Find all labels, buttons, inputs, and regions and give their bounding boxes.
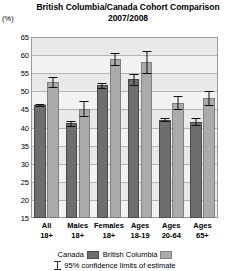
y-axis-tick-label: 40 [5, 123, 29, 132]
bar-british-columbia [172, 103, 184, 218]
chart-container: British Columbia/Canada Cohort Compariso… [0, 0, 230, 271]
legend-confidence-label: 95% confidence limits of estimate [64, 261, 175, 270]
legend-label-british-columbia: British Columbia [103, 250, 158, 259]
y-axis-tick-label: 45 [5, 105, 29, 114]
bar-canada [159, 120, 171, 218]
y-axis-tick-label: 50 [5, 87, 29, 96]
chart-subtitle: 2007/2008 [28, 13, 228, 24]
y-axis-tick-label: 60 [5, 51, 29, 60]
legend-swatch-canada-icon [87, 251, 99, 259]
bar-canada [97, 85, 109, 218]
chart-legend: Canada British Columbia 95% confidence l… [0, 249, 230, 271]
chart-title: British Columbia/Canada Cohort Compariso… [28, 2, 228, 23]
y-axis-tick-label: 65 [5, 33, 29, 42]
legend-swatch-british-columbia-icon [160, 251, 172, 259]
y-axis-tick-label: 35 [5, 141, 29, 150]
x-tick-line2: 65+ [183, 231, 222, 241]
legend-item-canada: Canada [58, 250, 99, 259]
legend-item-british-columbia: British Columbia [103, 250, 173, 259]
bars-layer [31, 37, 218, 218]
bar-british-columbia [203, 98, 215, 218]
y-axis-unit-label: (%) [2, 14, 14, 23]
legend-series-row: Canada British Columbia [0, 249, 230, 260]
bar-canada [128, 79, 140, 218]
x-axis-ticks: All18+Males18+Females18+Ages18-19Ages20-… [31, 221, 218, 247]
y-axis-tick-label: 30 [5, 159, 29, 168]
bar-british-columbia [110, 59, 122, 218]
chart-title-line1: British Columbia/Canada Cohort Compariso… [28, 2, 228, 13]
bar-british-columbia [79, 109, 91, 218]
bar-canada [66, 123, 78, 218]
x-tick-line1: Ages [183, 221, 222, 231]
y-axis-tick-label: 20 [5, 195, 29, 204]
legend-label-canada: Canada [58, 250, 84, 259]
bar-canada [190, 122, 202, 218]
legend-confidence-note: 95% confidence limits of estimate [0, 260, 230, 271]
y-axis-tick-label: 55 [5, 69, 29, 78]
x-axis-tick-label: Ages65+ [183, 221, 222, 241]
bar-canada [34, 105, 46, 218]
bar-british-columbia [47, 82, 59, 218]
error-bar-icon [54, 261, 61, 270]
y-axis-tick-label: 15 [5, 214, 29, 223]
y-axis-tick-label: 25 [5, 177, 29, 186]
bar-british-columbia [141, 62, 153, 218]
